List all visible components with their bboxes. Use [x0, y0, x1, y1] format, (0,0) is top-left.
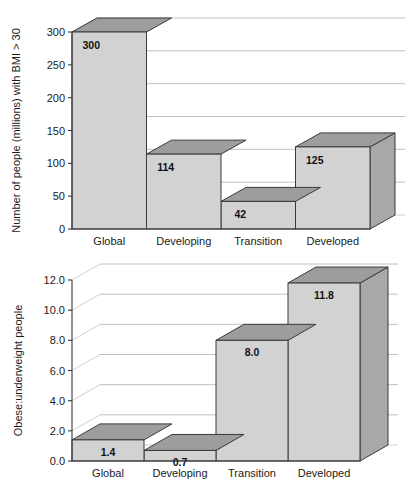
y-tick-label: 12.0 [44, 274, 65, 286]
x-category-label: Developed [298, 467, 351, 479]
figure-container: 12542114300050100150200250300GlobalDevel… [0, 0, 417, 497]
x-category-labels: GlobalDevelopingTransitionDeveloped [92, 467, 350, 479]
y-tick-label: 300 [47, 26, 65, 38]
bar-value-label: 11.8 [314, 289, 334, 301]
wall-diagonal [72, 324, 100, 340]
y-tick-label: 4.0 [50, 395, 65, 407]
bars-group: 12542114300 [72, 18, 395, 229]
wall-diagonal [72, 385, 100, 401]
y-tick-label: 10.0 [44, 304, 65, 316]
bar-front-face [72, 32, 147, 229]
y-tick-label: 0.0 [50, 455, 65, 467]
x-category-labels: GlobalDevelopingTransitionDeveloped [93, 235, 359, 247]
chart-obese-underweight-ratio: 11.88.00.71.40.02.04.06.08.010.012.0Glob… [0, 252, 417, 497]
y-tick-label: 6.0 [50, 365, 65, 377]
x-category-label: Transition [228, 467, 276, 479]
bar-front-face [288, 283, 360, 461]
x-category-label: Global [92, 467, 124, 479]
y-tick-label: 150 [47, 125, 65, 137]
x-category-label: Developing [156, 235, 211, 247]
y-tick-label: 50 [53, 190, 65, 202]
bar-side-face [370, 133, 395, 229]
bar-value-label: 8.0 [245, 346, 260, 358]
y-axis-title: Number of people (millions) with BMI > 3… [10, 28, 22, 233]
bar-value-label: 1.4 [101, 446, 116, 458]
y-tick-label: 100 [47, 157, 65, 169]
x-category-label: Transition [234, 235, 282, 247]
wall-diagonal [72, 264, 100, 280]
bars-group: 11.88.00.71.4 [72, 267, 388, 468]
bar-value-label: 125 [306, 154, 324, 166]
bar-top-face [72, 18, 172, 32]
bar-side-face [360, 267, 388, 461]
x-category-label: Developed [306, 235, 359, 247]
y-tick-label: 0 [59, 223, 65, 235]
wall-diagonal [72, 355, 100, 371]
y-axis-title: Obese:underweight people [12, 305, 24, 436]
chart-top-canvas: 12542114300050100150200250300GlobalDevel… [0, 0, 417, 252]
y-tick-label: 200 [47, 92, 65, 104]
wall-diagonal [72, 294, 100, 310]
y-tick-labels: 0.02.04.06.08.010.012.0 [44, 274, 65, 467]
x-category-label: Developing [152, 467, 207, 479]
y-tick-label: 2.0 [50, 425, 65, 437]
bar-front-face [221, 201, 296, 229]
x-category-label: Global [93, 235, 125, 247]
chart-bottom-canvas: 11.88.00.71.40.02.04.06.08.010.012.0Glob… [0, 252, 417, 497]
bar-developed: 125 [296, 133, 396, 229]
bar-top-face [72, 424, 172, 440]
y-tick-labels: 050100150200250300 [47, 26, 65, 235]
bar-developed: 11.8 [288, 267, 388, 461]
bar-top-face [147, 140, 247, 154]
bar-value-label: 114 [157, 161, 174, 173]
bar-value-label: 42 [234, 208, 246, 220]
chart-obesity-counts: 12542114300050100150200250300GlobalDevel… [0, 0, 417, 252]
bar-value-label: 300 [82, 39, 100, 51]
y-tick-label: 250 [47, 59, 65, 71]
y-tick-label: 8.0 [50, 334, 65, 346]
